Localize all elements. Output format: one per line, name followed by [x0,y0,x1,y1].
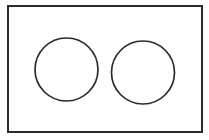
left-circle-shape [35,38,98,101]
line-drawing-figure [0,0,209,140]
right-circle-shape [112,41,175,104]
outer-rectangle-shape [8,6,202,132]
diagram-canvas [0,0,209,140]
